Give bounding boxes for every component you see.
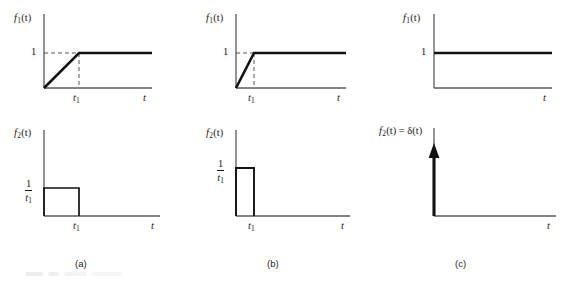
- curve-ramp: [236, 53, 346, 88]
- panel-a: f1(t) 1 t1 t f2(t) 1 t1 t1 t (a): [0, 0, 190, 281]
- plot-b-f1: f1(t) 1 t1 t: [188, 0, 378, 120]
- y-tick-1: 1: [421, 47, 426, 58]
- x-axis-label: t: [337, 93, 340, 104]
- x-tick-t1: t1: [73, 221, 80, 232]
- curve-pulse: [44, 188, 79, 216]
- plot-a-f1: f1(t) 1 t1 t: [0, 0, 190, 120]
- x-tick-t1: t1: [73, 93, 80, 104]
- x-tick-t1: t1: [248, 93, 255, 104]
- plot-c-f2-canvas: [370, 120, 572, 255]
- plot-c-f2: f2(t) = δ(t) t: [370, 120, 572, 255]
- y-tick-one-over-t1: 1 t1: [217, 158, 224, 185]
- x-tick-t1: t1: [248, 221, 255, 232]
- panel-caption-b: (b): [267, 259, 279, 269]
- panel-b: f1(t) 1 t1 t f2(t) 1 t1 t1 t (b): [188, 0, 378, 281]
- y-tick-1: 1: [31, 47, 36, 58]
- y-axis-label: f2(t): [206, 128, 223, 139]
- plot-b-f2-canvas: [188, 120, 378, 255]
- y-axis-label: f2(t) = δ(t): [379, 126, 422, 137]
- plot-c-f1: f1(t) 1 t: [370, 0, 572, 120]
- x-axis-label: t: [151, 221, 154, 232]
- plot-a-f2: f2(t) 1 t1 t1 t: [0, 120, 190, 255]
- x-axis-label: t: [543, 93, 546, 104]
- fraction-denominator: t1: [217, 171, 224, 185]
- x-axis-label: t: [341, 221, 344, 232]
- y-tick-1: 1: [223, 47, 228, 58]
- panel-c: f1(t) 1 t f2(t) = δ(t) t (c): [370, 0, 572, 281]
- delta-impulse-arrowhead: [429, 143, 440, 158]
- x-axis-label: t: [143, 93, 146, 104]
- fraction-numerator: 1: [217, 158, 224, 171]
- y-axis-label: f1(t): [403, 13, 420, 24]
- plot-b-f2: f2(t) 1 t1 t1 t: [188, 120, 378, 255]
- curve-pulse: [236, 168, 254, 216]
- y-axis-label: f2(t): [14, 128, 31, 139]
- x-axis-label: t: [547, 221, 550, 232]
- panel-caption-c: (c): [455, 259, 466, 269]
- plot-c-f1-canvas: [370, 0, 572, 120]
- y-axis-label: f1(t): [14, 13, 31, 24]
- curve-ramp: [44, 53, 152, 88]
- y-tick-one-over-t1: 1 t1: [25, 178, 32, 205]
- fraction-denominator: t1: [25, 191, 32, 205]
- panel-caption-a: (a): [75, 259, 87, 269]
- y-axis-label: f1(t): [206, 13, 223, 24]
- figure-root: f1(t) 1 t1 t f2(t) 1 t1 t1 t (a): [0, 0, 572, 281]
- fraction-numerator: 1: [25, 178, 32, 191]
- clipped-caption-smudge: [26, 272, 122, 276]
